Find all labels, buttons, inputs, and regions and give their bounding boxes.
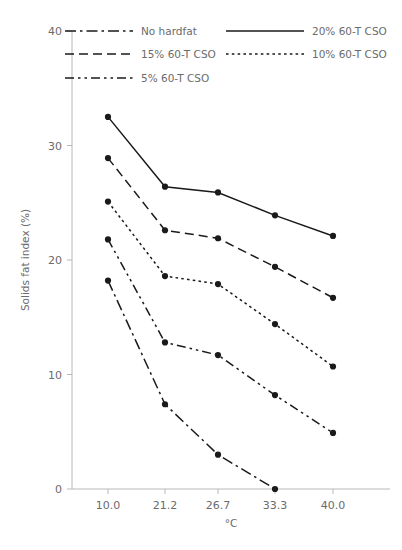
data-point-s0-p2 — [215, 189, 221, 195]
y-tick-label-20: 20 — [48, 254, 62, 267]
data-point-s2-p2 — [215, 281, 221, 287]
data-point-s2-p4 — [330, 363, 336, 369]
x-axis-ticks — [108, 489, 333, 494]
x-tick-label-3: 33.3 — [263, 499, 288, 512]
data-point-s0-p1 — [162, 184, 168, 190]
data-point-s3-p0 — [105, 236, 111, 242]
data-point-s1-p3 — [272, 264, 278, 270]
chart-figure: 010203040 10.021.226.733.340.0 Solids fa… — [0, 0, 402, 550]
legend-label-0: No hardfat — [141, 25, 197, 37]
data-point-s3-p2 — [215, 352, 221, 358]
data-point-s4-p3 — [272, 486, 278, 492]
y-tick-label-0: 0 — [55, 483, 62, 496]
x-axis-title: °C — [225, 517, 238, 529]
data-point-s1-p1 — [162, 227, 168, 233]
data-point-s0-p0 — [105, 114, 111, 120]
x-tick-label-0: 10.0 — [96, 499, 121, 512]
data-point-s3-p1 — [162, 339, 168, 345]
y-tick-label-10: 10 — [48, 369, 62, 382]
y-axis-tick-labels: 010203040 — [48, 25, 62, 496]
series-line-0 — [108, 117, 333, 236]
x-tick-label-2: 26.7 — [206, 499, 231, 512]
y-axis-ticks — [67, 31, 72, 489]
series-line-4 — [108, 281, 275, 489]
data-point-s0-p3 — [272, 212, 278, 218]
data-point-s2-p3 — [272, 321, 278, 327]
data-markers-group — [105, 114, 336, 492]
legend-label-4: 5% 60-T CSO — [141, 72, 209, 84]
legend-label-1: 20% 60-T CSO — [312, 25, 387, 37]
solids-fat-index-line-chart: 010203040 10.021.226.733.340.0 Solids fa… — [0, 0, 402, 550]
data-point-s0-p4 — [330, 233, 336, 239]
legend-label-2: 15% 60-T CSO — [141, 48, 216, 60]
y-axis-title: Solids fat index (%) — [19, 209, 31, 311]
data-series-group — [108, 117, 333, 489]
x-axis-tick-labels: 10.021.226.733.340.0 — [96, 499, 346, 512]
data-point-s4-p2 — [215, 452, 221, 458]
data-point-s4-p0 — [105, 278, 111, 284]
series-line-3 — [108, 239, 333, 433]
data-point-s3-p3 — [272, 392, 278, 398]
data-point-s1-p2 — [215, 235, 221, 241]
data-point-s2-p0 — [105, 199, 111, 205]
x-tick-label-4: 40.0 — [321, 499, 346, 512]
data-point-s4-p1 — [162, 401, 168, 407]
series-line-1 — [108, 158, 333, 298]
y-tick-label-40: 40 — [48, 25, 62, 38]
chart-legend: No hardfat20% 60-T CSO15% 60-T CSO10% 60… — [65, 25, 387, 84]
y-tick-label-30: 30 — [48, 140, 62, 153]
data-point-s2-p1 — [162, 273, 168, 279]
data-point-s1-p4 — [330, 295, 336, 301]
legend-label-3: 10% 60-T CSO — [312, 48, 387, 60]
data-point-s1-p0 — [105, 155, 111, 161]
data-point-s3-p4 — [330, 430, 336, 436]
x-tick-label-1: 21.2 — [153, 499, 178, 512]
